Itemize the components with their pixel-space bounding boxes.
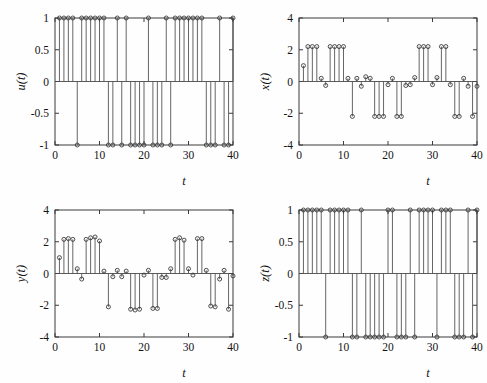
x-tick-label: 40 [471, 341, 483, 353]
y-tick-label: -0.5 [31, 107, 49, 119]
y-tick-label: -4 [283, 139, 293, 151]
x-tick-label: 20 [138, 341, 150, 353]
y-tick-label: -1 [39, 139, 49, 151]
x-tick-label: 40 [471, 149, 483, 161]
x-tick-label: 0 [296, 149, 302, 161]
stem-plot-figure: 010203040-1-0.500.51tu(t) 010203040-4-20… [0, 0, 487, 383]
panel-u-of-t: 010203040-1-0.500.51tu(t) [0, 0, 243, 191]
y-tick-label: 0.5 [35, 44, 50, 56]
x-tick-label: 40 [227, 149, 239, 161]
y-tick-label: 4 [43, 204, 49, 216]
x-tick-label: 10 [338, 341, 350, 353]
y-tick-label: -1 [283, 331, 293, 343]
y-tick-label: 0 [287, 268, 293, 280]
panel-y-of-t: 010203040-4-2024ty(t) [0, 192, 243, 383]
x-tick-label: 20 [382, 341, 394, 353]
x-tick-label: 0 [52, 341, 58, 353]
x-tick-label: 40 [227, 341, 239, 353]
chart-y: 010203040-4-2024ty(t) [0, 192, 243, 383]
chart-z: 010203040-1-0.500.51tz(t) [244, 192, 487, 383]
x-tick-label: 0 [52, 149, 58, 161]
y-axis-label: y(t) [14, 265, 28, 284]
y-tick-label: 0 [43, 76, 49, 88]
y-axis-label: z(t) [258, 265, 272, 283]
x-axis-label: t [426, 366, 430, 380]
y-tick-label: 2 [287, 44, 293, 56]
x-tick-label: 10 [94, 341, 106, 353]
x-tick-label: 10 [94, 149, 106, 161]
x-tick-label: 0 [296, 341, 302, 353]
y-tick-label: 1 [287, 204, 293, 216]
chart-u: 010203040-1-0.500.51tu(t) [0, 0, 243, 191]
x-tick-label: 20 [138, 149, 150, 161]
x-tick-label: 10 [338, 149, 350, 161]
y-tick-label: -2 [283, 107, 293, 119]
y-tick-label: 4 [287, 12, 293, 24]
x-axis-label: t [182, 366, 186, 380]
y-tick-label: 2 [43, 236, 49, 248]
x-tick-label: 30 [427, 149, 439, 161]
chart-x: 010203040-4-2024tx(t) [244, 0, 487, 191]
y-tick-label: -4 [39, 331, 49, 343]
x-tick-label: 30 [183, 149, 195, 161]
x-axis-label: t [426, 174, 430, 188]
y-tick-label: 1 [43, 12, 49, 24]
y-tick-label: -0.5 [275, 299, 293, 311]
y-tick-label: 0.5 [279, 236, 294, 248]
x-axis-label: t [182, 174, 186, 188]
y-axis-label: x(t) [258, 73, 272, 91]
panel-z-of-t: 010203040-1-0.500.51tz(t) [244, 192, 487, 383]
x-tick-label: 30 [427, 341, 439, 353]
y-axis-label: u(t) [14, 72, 28, 90]
y-tick-label: -2 [39, 299, 49, 311]
y-tick-label: 0 [43, 268, 49, 280]
x-tick-label: 20 [382, 149, 394, 161]
panel-x-of-t: 010203040-4-2024tx(t) [244, 0, 487, 191]
y-tick-label: 0 [287, 76, 293, 88]
x-tick-label: 30 [183, 341, 195, 353]
